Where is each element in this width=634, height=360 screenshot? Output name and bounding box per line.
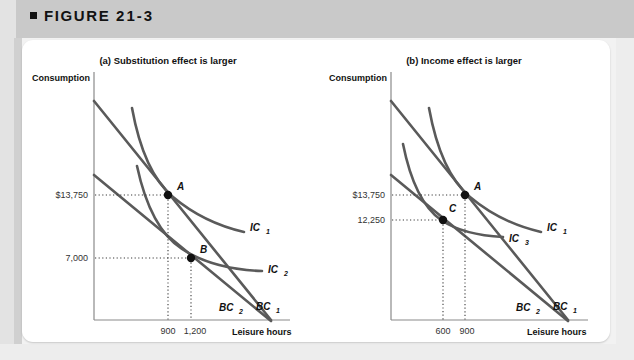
panel-a-y-axis-label: Consumption: [32, 73, 90, 83]
panel-a-label-ic1: IC 1: [250, 222, 270, 235]
panel-a-label-bc2: BC 2: [219, 302, 243, 315]
panel-a-ytick-1: 7,000: [65, 253, 88, 263]
panel-b-ytick-0: $13,750: [352, 190, 385, 200]
page-bottom-gutter: [0, 344, 634, 360]
panel-a-xtick-1: 1,200: [184, 326, 207, 336]
panel-b-label-bc2-text: BC: [516, 302, 531, 313]
panel-b-point-a-label: A: [473, 181, 481, 192]
panel-b-xtick-1: 900: [459, 326, 474, 336]
panel-b-point-a: [461, 191, 469, 199]
panel-b-label-bc1-text: BC: [553, 301, 568, 312]
panel-b-label-ic1: IC 1: [547, 222, 567, 235]
panel-b-ytick-1: 12,250: [357, 215, 385, 225]
panel-b-xtick-0: 600: [435, 326, 450, 336]
panel-b: (b) Income effect is larger Consumption: [329, 55, 588, 337]
panel-a-label-ic1-text: IC: [250, 222, 261, 233]
panel-b-label-ic1-text: IC: [547, 222, 558, 233]
panel-a-label-bc2-sub: 2: [238, 308, 243, 315]
panel-a-label-bc1-text: BC: [256, 301, 271, 312]
panel-a-label-ic2-sub: 2: [283, 270, 288, 277]
panel-b-y-axis-label: Consumption: [329, 73, 387, 83]
square-bullet-icon: [30, 12, 37, 19]
panel-a-title: (a) Substitution effect is larger: [99, 55, 237, 66]
panel-a-ytick-0: $13,750: [55, 190, 88, 200]
panel-a-point-b: [187, 254, 195, 262]
figure-title-word: FIGURE: [44, 7, 110, 24]
panel-b-point-c-label: C: [449, 203, 457, 214]
page-left-gutter-shadow: [14, 38, 22, 360]
panel-b-label-bc2-sub: 2: [535, 308, 540, 315]
panel-a-curve-bc1: [94, 101, 271, 320]
figure-svg: (a) Substitution effect is larger Consum…: [22, 40, 610, 342]
panel-a-xtick-0: 900: [160, 326, 175, 336]
panel-a-label-ic2: IC 2: [268, 264, 288, 277]
figure-panels: (a) Substitution effect is larger Consum…: [22, 40, 610, 342]
panel-a-label-ic1-sub: 1: [266, 228, 270, 235]
panel-b-curve-bc2: [391, 175, 568, 321]
panel-b-label-ic1-sub: 1: [563, 228, 567, 235]
panel-a-label-bc1-sub: 1: [276, 307, 280, 314]
figure-root: FIGURE 21-3 (a) Substitution effect is l…: [0, 0, 634, 360]
panel-b-title: (b) Income effect is larger: [406, 55, 522, 66]
panel-a-label-ic2-text: IC: [268, 264, 279, 275]
panel-a-point-a-label: A: [176, 181, 184, 192]
panel-b-label-bc2: BC 2: [516, 302, 540, 315]
panel-a-label-bc2-text: BC: [219, 302, 234, 313]
page-right-gutter: [616, 38, 634, 360]
panel-a-point-a: [164, 191, 172, 199]
panel-b-x-axis-label: Leisure hours: [527, 327, 587, 337]
panel-a-curve-ic2: [137, 166, 262, 271]
figure-number: 21-3: [116, 7, 154, 24]
panel-b-label-ic3: IC 3: [509, 233, 529, 246]
panel-a-x-axis-label: Leisure hours: [232, 327, 292, 337]
panel-b-point-c: [439, 216, 447, 224]
panel-b-curve-bc1: [391, 101, 568, 320]
panel-b-label-ic3-sub: 3: [525, 239, 529, 246]
panel-b-label-ic3-text: IC: [509, 233, 520, 244]
panel-a-point-b-label: B: [200, 244, 207, 255]
figure-title: FIGURE 21-3: [30, 7, 154, 24]
panel-a: (a) Substitution effect is larger Consum…: [32, 55, 292, 337]
panel-b-label-bc1-sub: 1: [573, 307, 577, 314]
